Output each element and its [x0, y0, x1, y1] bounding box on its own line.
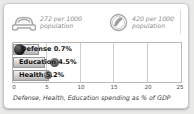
- x-tick-25: 25: [176, 84, 183, 90]
- bar-health-label: Health 5.2%: [19, 71, 64, 80]
- stat-telephones-value: 420 per 1000 population: [132, 15, 174, 30]
- bar-defense-label: Defense 0.7%: [21, 45, 72, 54]
- x-tick-10: 10: [77, 84, 84, 90]
- infographic-card: 272 per 1000 population 420 per 1000 pop…: [3, 3, 189, 109]
- stat-telephones: 420 per 1000 population: [109, 13, 174, 32]
- bar-education-label: Education 4.5%: [19, 58, 77, 67]
- divider: [180, 10, 181, 34]
- x-tick-15: 15: [110, 84, 117, 90]
- chart-caption: Defense, Health, Education spending as %…: [13, 94, 189, 101]
- x-tick-20: 20: [144, 84, 151, 90]
- gridline-20: [147, 43, 148, 82]
- bar-chart-plot: Defense 0.7% Education 4.5% Health 5.2%: [12, 42, 182, 83]
- stat-vehicles-value: 272 per 1000 population: [40, 15, 82, 30]
- gridline-10: [80, 43, 81, 82]
- stat-vehicles: 272 per 1000 population: [12, 14, 104, 31]
- gridline-15: [113, 43, 114, 82]
- car-icon: [12, 14, 36, 31]
- telephone-circle-icon: [109, 13, 128, 32]
- x-axis: 0 5 10 15 20 25: [12, 84, 182, 93]
- stats-row: 272 per 1000 population 420 per 1000 pop…: [4, 6, 189, 38]
- x-tick-5: 5: [45, 84, 49, 90]
- x-tick-0: 0: [12, 84, 16, 90]
